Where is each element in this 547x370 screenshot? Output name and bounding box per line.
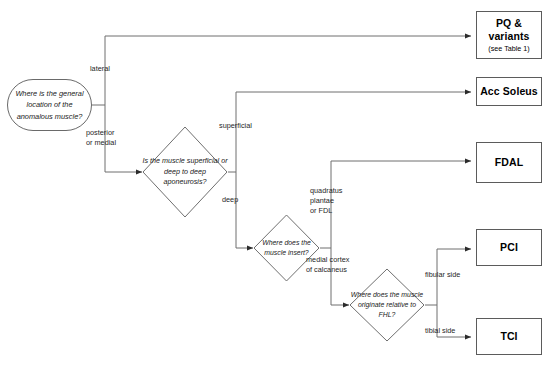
edge-label-deep: deep [222, 195, 238, 205]
edge-label-superficial: superficial [219, 121, 252, 131]
result-box-pci[interactable]: PCI [476, 229, 542, 266]
edge-label-fibular-side: fibular side [425, 270, 460, 280]
result-box-acc-soleus[interactable]: Acc Soleus [476, 77, 542, 106]
diamond-shape-origin [349, 268, 425, 342]
edge-label-quadratus-plantae-or-fdl: quadratus plantae or FDL [310, 186, 342, 216]
edge-label-posterior-or-medial: posterior or medial [86, 128, 116, 148]
result-box-fdal-label: FDAL [495, 156, 523, 169]
result-box-pq[interactable]: PQ & variants (see Table 1) [476, 11, 542, 59]
result-box-pq-sublabel: (see Table 1) [477, 44, 541, 53]
result-box-tci[interactable]: TCI [476, 318, 542, 355]
decision-aponeurosis[interactable]: Is the muscle superficial or deep to dee… [142, 126, 228, 218]
edge-label-lateral: lateral [90, 64, 110, 74]
edge-calcaneus-to-origin [331, 283, 349, 305]
result-box-acc-soleus-label: Acc Soleus [480, 85, 538, 98]
diamond-shape-aponeurosis [142, 126, 228, 218]
result-box-pci-label: PCI [500, 241, 518, 254]
start-node-location-question[interactable]: Where is the general location of the ano… [7, 79, 92, 131]
edge-label-tibial-side: tibial side [425, 326, 455, 336]
result-box-pq-label: PQ & variants [488, 17, 529, 42]
flowchart-canvas: Where is the general location of the ano… [0, 0, 547, 370]
start-node-label: Where is the general location of the ano… [13, 88, 86, 121]
edge-deep-to-insertion [236, 211, 253, 248]
decision-origin[interactable]: Where does the muscle originate relative… [349, 268, 425, 342]
connector-layer [0, 0, 547, 370]
edge-label-medial-cortex-of-calcaneus: medial cortex of calcaneus [306, 255, 349, 275]
result-box-fdal[interactable]: FDAL [476, 142, 542, 183]
result-box-tci-label: TCI [500, 330, 517, 343]
